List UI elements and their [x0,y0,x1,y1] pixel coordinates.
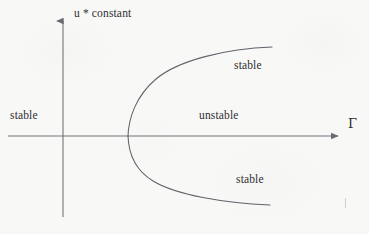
curve-lower-stable-branch [128,136,270,205]
region-label-unstable: unstable [199,110,239,122]
region-label-stable-left: stable [10,110,38,122]
region-label-stable-upper: stable [234,60,262,72]
bifurcation-diagram-figure: u * constant Γ stable stable unstable st… [0,0,369,234]
y-axis-label: u * constant [74,8,131,20]
diagram-canvas [0,0,369,234]
region-label-stable-lower: stable [236,174,264,186]
scan-artifact-mark [345,198,346,208]
x-axis-label: Γ [348,117,357,130]
